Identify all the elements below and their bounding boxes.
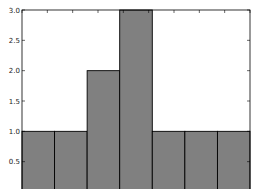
histogram-bars (22, 10, 250, 189)
y-tick-label: 0.5 (9, 158, 20, 166)
histogram-bar (152, 131, 185, 189)
y-tick-label: 2.5 (9, 37, 20, 45)
histogram-bar (217, 131, 250, 189)
y-tick-label: 1.5 (9, 98, 20, 106)
histogram-bar (185, 131, 218, 189)
y-tick-label: 3.0 (9, 7, 20, 15)
histogram-bar (55, 131, 88, 189)
histogram-bar (22, 131, 55, 189)
histogram-bar (87, 71, 120, 189)
histogram-bar (120, 10, 153, 189)
y-tick-label: 2.0 (9, 67, 20, 75)
y-tick-label: 1.0 (9, 128, 20, 136)
y-tick-label: 0.0 (9, 189, 20, 190)
histogram-chart: 26283032343638404244 0.00.51.01.52.02.53… (0, 0, 256, 189)
